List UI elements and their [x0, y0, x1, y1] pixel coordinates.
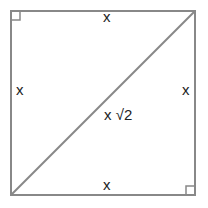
label-bottom: x — [103, 177, 111, 192]
label-top: x — [103, 9, 111, 24]
right-angle-marker-top-left — [11, 11, 20, 20]
label-right: x — [182, 82, 190, 97]
right-angle-marker-bottom-right — [186, 186, 195, 195]
label-left: x — [16, 82, 24, 97]
diagonal-line — [11, 11, 195, 195]
label-diagonal: x √2 — [104, 107, 132, 122]
